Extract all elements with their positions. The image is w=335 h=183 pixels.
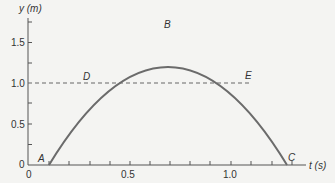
x-tick-label-0: 0 [26,169,32,180]
point-label-a: A [37,153,45,164]
point-label-c: C [288,152,296,163]
y-tick-label-1.5: 1.5 [11,37,25,48]
x-tick-label-1.0: 1.0 [223,169,237,180]
x-tick-label-0.5: 0.5 [121,169,135,180]
y-tick-label-0: 0 [19,159,25,170]
y-tick-label-1.0: 1.0 [11,78,25,89]
trajectory-chart: 1.5 1.0 0.5 0 0 0.5 1.0 y (m) t (s) A B … [0,0,335,183]
chart-svg: 1.5 1.0 0.5 0 0 0.5 1.0 y (m) t (s) A B … [0,0,335,183]
x-axis-label: t (s) [309,160,326,171]
point-label-b: B [164,19,171,30]
point-label-e: E [245,70,252,81]
y-axis-label: y (m) [18,3,42,14]
point-label-d: D [83,71,90,82]
y-tick-label-0.5: 0.5 [11,119,25,130]
x-ticks [49,161,292,165]
